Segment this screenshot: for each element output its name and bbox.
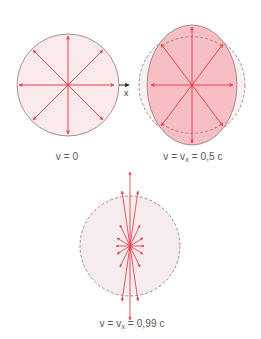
near-c-charge xyxy=(129,245,132,248)
panel-rest xyxy=(17,34,129,136)
half-c-charge xyxy=(191,84,194,87)
label-near-c: v = vx = 0,99 c xyxy=(99,318,164,330)
label-rest: v = 0 xyxy=(56,151,78,162)
label-half-c: v = vx = 0,5 c xyxy=(163,151,222,163)
panel-near-c xyxy=(80,172,180,320)
label-near-c-v: v = v xyxy=(99,318,121,329)
panel-half-c xyxy=(139,25,245,145)
label-half-c-value: = 0,5 c xyxy=(189,151,223,162)
label-half-c-v: v = v xyxy=(163,151,185,162)
label-rest-value: = 0 xyxy=(61,151,78,162)
label-near-c-value: = 0,99 c xyxy=(125,318,165,329)
x-axis-label: x xyxy=(124,88,129,98)
field-lines-diagram xyxy=(0,0,261,339)
rest-charge xyxy=(67,84,70,87)
